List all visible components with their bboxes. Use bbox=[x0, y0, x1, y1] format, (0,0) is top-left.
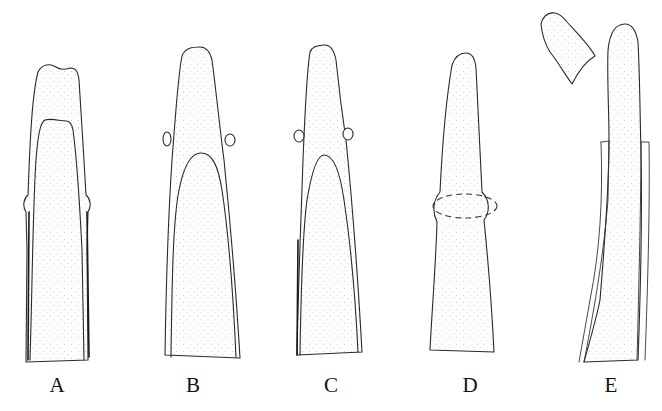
panel-c-knob-right bbox=[343, 128, 353, 140]
panel-e-detached-cap bbox=[541, 13, 595, 84]
panel-label-b: B bbox=[186, 373, 200, 397]
panel-b-outer-tip bbox=[165, 47, 240, 358]
panel-label-d: D bbox=[462, 373, 477, 397]
panel-a-wall-left bbox=[28, 212, 29, 360]
panel-b-knob-right bbox=[225, 134, 235, 146]
panel-label-c: C bbox=[324, 373, 338, 397]
panel-d-outer-tip bbox=[430, 53, 494, 352]
panel-label-e: E bbox=[605, 373, 618, 397]
panel-c-wall-left bbox=[297, 240, 298, 355]
panel-c-knob-left bbox=[294, 130, 304, 142]
panel-d bbox=[430, 53, 497, 352]
panel-e-sheath-right-outer bbox=[641, 142, 649, 360]
figure-illustration: A B C D E bbox=[0, 0, 662, 411]
panel-a bbox=[24, 65, 90, 362]
panel-c bbox=[294, 45, 362, 355]
panel-b bbox=[163, 47, 240, 358]
panel-label-a: A bbox=[49, 373, 65, 397]
panel-b-knob-left bbox=[163, 132, 171, 146]
panel-e-elongated-tip bbox=[584, 24, 641, 362]
panel-e bbox=[541, 13, 649, 362]
